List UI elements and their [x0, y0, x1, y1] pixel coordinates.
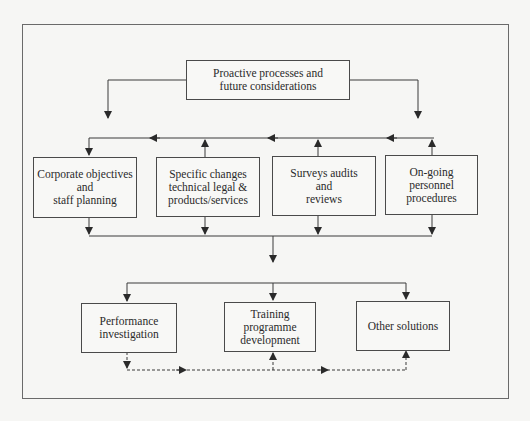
edge-top-to-left [108, 80, 186, 118]
edge-top-to-right [350, 80, 418, 118]
node-specific-changes: Specific changes technical legal & produ… [156, 157, 260, 217]
node-training-programme: Training programme development [224, 302, 316, 352]
node-other-solutions: Other solutions [356, 301, 450, 351]
node-proactive-processes: Proactive processes and future considera… [186, 60, 350, 100]
node-performance-investigation: Performance investigation [81, 303, 177, 353]
node-corporate-objectives: Corporate objectives and staff planning [33, 157, 137, 218]
node-ongoing-personnel: On-going personnel procedures [385, 155, 478, 215]
node-surveys-audits: Surveys audits and reviews [272, 156, 376, 216]
